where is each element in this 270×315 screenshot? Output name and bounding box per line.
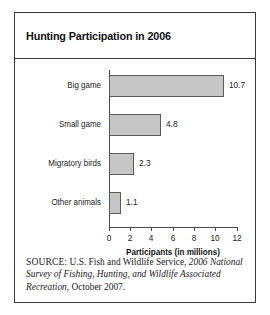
source-line3-roman: , October 2007. <box>67 282 125 292</box>
category-label: Other animals <box>0 197 101 207</box>
tick-mark <box>109 227 110 231</box>
tick-mark <box>237 227 238 231</box>
source-note: SOURCE: U.S. Fish and Wildlife Service, … <box>26 256 246 293</box>
tick-label: 4 <box>149 233 154 243</box>
source-line1-italic: 2006 National <box>189 257 243 267</box>
bar-rows: Big game 10.7 Small game 4.8 Migratory b… <box>15 71 255 227</box>
tick-mark <box>194 227 195 231</box>
bar-migratory-birds <box>109 153 134 175</box>
source-line1-roman: U.S. Fish and Wildlife Service, <box>67 257 189 267</box>
source-prefix: SOURCE: <box>26 256 67 267</box>
title-zone: Hunting Participation in 2006 <box>15 13 255 58</box>
bar-value-label: 4.8 <box>166 119 178 129</box>
figure-frame: Hunting Participation in 2006 Big game 1… <box>14 12 256 303</box>
tick-label: 10 <box>210 233 219 243</box>
bar-other-animals <box>109 192 121 214</box>
tick-label: 8 <box>192 233 197 243</box>
tick-label: 6 <box>171 233 176 243</box>
bar-row: Small game 4.8 <box>15 110 255 149</box>
tick-mark <box>130 227 131 231</box>
bar-big-game <box>109 75 224 97</box>
bar-value-label: 2.3 <box>139 158 151 168</box>
tick-label: 0 <box>107 233 112 243</box>
bar-value-label: 10.7 <box>229 80 245 90</box>
category-label: Big game <box>0 80 101 90</box>
tick-label: 12 <box>232 233 241 243</box>
chart-title: Hunting Participation in 2006 <box>26 30 171 42</box>
plot-area: Big game 10.7 Small game 4.8 Migratory b… <box>15 59 255 259</box>
tick-label: 2 <box>128 233 133 243</box>
bar-small-game <box>109 114 161 136</box>
category-label: Migratory birds <box>0 158 101 168</box>
tick-mark <box>151 227 152 231</box>
source-line2-italic: Survey of Fishing, Hunting, and Wildlife… <box>26 269 221 279</box>
source-line3-italic: Recreation <box>26 282 67 292</box>
bar-row: Migratory birds 2.3 <box>15 149 255 188</box>
tick-mark <box>173 227 174 231</box>
bar-value-label: 1.1 <box>126 197 138 207</box>
category-label: Small game <box>0 119 101 129</box>
tick-mark <box>215 227 216 231</box>
bar-row: Other animals 1.1 <box>15 188 255 227</box>
bar-row: Big game 10.7 <box>15 71 255 110</box>
